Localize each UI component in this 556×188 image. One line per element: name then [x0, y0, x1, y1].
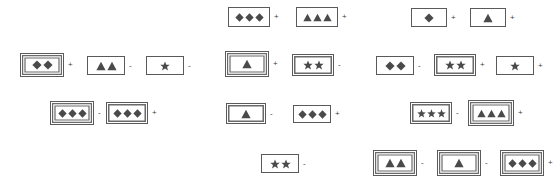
diamond-icon [518, 159, 527, 168]
diamond-icon [133, 109, 142, 118]
diamond-icon [58, 109, 67, 118]
plus-operator: + [510, 14, 515, 22]
plus-operator: + [342, 13, 347, 21]
expression-term[interactable]: + [106, 102, 157, 124]
expression-term[interactable]: - [437, 150, 488, 176]
minus-operator: - [270, 110, 273, 118]
triangle-icon [487, 109, 496, 118]
expression-term[interactable]: + [496, 56, 543, 75]
expression-term[interactable]: + [468, 100, 523, 126]
expression-term[interactable]: - [50, 101, 101, 125]
diamond-icon [424, 13, 434, 23]
diamond-icon [424, 13, 434, 23]
shape-frame-2x[interactable] [226, 103, 266, 124]
star-icon [270, 159, 280, 169]
expression-term[interactable]: + [293, 105, 340, 123]
expression-term[interactable]: + [500, 150, 553, 176]
plus-operator: + [548, 159, 553, 167]
diamond-icon [396, 61, 406, 71]
expression-term[interactable]: + [296, 7, 347, 27]
triangle-icon [454, 158, 464, 168]
minus-operator: - [485, 159, 488, 167]
triangle-icon [242, 59, 252, 69]
expression-term[interactable]: + [20, 53, 73, 77]
star-icon [510, 61, 520, 71]
triangle-icon [454, 158, 464, 168]
shape-frame-3x[interactable] [373, 150, 417, 176]
plus-operator: + [518, 109, 523, 117]
star-icon [417, 109, 426, 118]
diamond-icon [43, 60, 53, 70]
expression-term[interactable]: - [261, 154, 306, 173]
diamond-icon [32, 60, 42, 70]
shape-group-star [262, 155, 298, 172]
shape-frame-2x[interactable] [410, 102, 452, 124]
plus-operator: + [68, 61, 73, 69]
expression-term[interactable]: - [87, 56, 132, 75]
diamond-icon [385, 61, 395, 71]
shape-frame-3x[interactable] [50, 101, 94, 125]
star-icon [160, 61, 170, 71]
shape-group-triangle [471, 9, 505, 26]
expression-term[interactable]: - [226, 103, 273, 124]
minus-operator: - [338, 61, 341, 69]
shape-frame-2x[interactable] [106, 102, 148, 124]
shape-frame-1x[interactable] [470, 8, 506, 27]
shape-group-triangle [378, 155, 412, 171]
expression-term[interactable]: + [225, 51, 278, 77]
shape-frame-2x[interactable] [434, 54, 476, 76]
diamond-icon [43, 60, 53, 70]
expression-term[interactable]: + [411, 8, 456, 27]
triangle-icon [313, 13, 322, 22]
plus-operator: + [273, 60, 278, 68]
triangle-icon [497, 109, 506, 118]
triangle-icon [396, 158, 406, 168]
shape-frame-3x[interactable] [437, 150, 481, 176]
shape-frame-3x[interactable] [500, 150, 544, 176]
diamond-icon [235, 13, 244, 22]
shape-frame-1x[interactable] [293, 105, 331, 123]
triangle-icon [303, 13, 312, 22]
shape-frame-1x[interactable] [146, 56, 184, 75]
star-icon [417, 109, 426, 118]
expression-term[interactable]: - [410, 102, 459, 124]
shape-frame-1x[interactable] [87, 56, 125, 75]
shape-group-diamond [294, 106, 330, 122]
shape-frame-3x[interactable] [468, 100, 514, 126]
expression-term[interactable]: - [376, 56, 421, 75]
shape-frame-1x[interactable] [496, 56, 534, 75]
expression-term[interactable]: + [228, 7, 279, 27]
triangle-icon [477, 109, 486, 118]
triangle-icon [303, 13, 312, 22]
triangle-icon [483, 13, 493, 23]
shape-frame-2x[interactable] [292, 54, 334, 76]
shape-frame-1x[interactable] [261, 154, 299, 173]
diamond-icon [298, 110, 307, 119]
shape-frame-1x[interactable] [228, 7, 270, 27]
diamond-icon [508, 159, 517, 168]
diamond-icon [32, 60, 42, 70]
expression-term[interactable]: - [373, 150, 424, 176]
minus-operator: - [421, 159, 424, 167]
shape-frame-3x[interactable] [225, 51, 269, 77]
shape-group-star [497, 57, 533, 74]
expression-term[interactable]: - [146, 56, 191, 75]
shape-group-diamond [55, 106, 89, 120]
shape-group-diamond [505, 155, 539, 171]
expression-term[interactable]: + [434, 54, 485, 76]
expression-term[interactable]: - [292, 54, 341, 76]
diamond-icon [78, 109, 87, 118]
expression-term[interactable]: + [470, 8, 515, 27]
diamond-icon [528, 159, 537, 168]
shape-frame-1x[interactable] [411, 8, 447, 27]
shape-group-diamond [229, 8, 269, 26]
star-icon [445, 60, 455, 70]
shape-frame-1x[interactable] [296, 7, 338, 27]
triangle-icon [497, 109, 506, 118]
triangle-icon [107, 61, 117, 71]
shape-frame-1x[interactable] [376, 56, 414, 75]
shape-frame-3x[interactable] [20, 53, 64, 77]
plus-operator: + [480, 61, 485, 69]
star-icon [437, 109, 446, 118]
star-icon [456, 60, 466, 70]
